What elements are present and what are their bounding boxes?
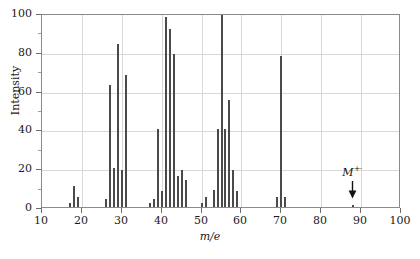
peak-bar xyxy=(149,203,151,207)
gridline-vertical xyxy=(202,15,203,207)
peak-bar xyxy=(213,190,215,207)
gridline-vertical xyxy=(241,15,242,207)
y-tick-mark xyxy=(36,130,41,131)
peak-bar xyxy=(177,176,179,207)
peak-bar xyxy=(113,168,115,207)
x-tick-label: 20 xyxy=(61,214,101,227)
peak-bar xyxy=(169,29,171,207)
y-axis-title: Intensity xyxy=(9,31,22,151)
y-tick-mark xyxy=(36,208,41,209)
peak-bar xyxy=(121,170,123,207)
peak-bar xyxy=(232,170,234,207)
peak-bar xyxy=(117,44,119,207)
y-tick-mark-minor xyxy=(38,111,41,112)
plot-area xyxy=(41,14,400,208)
y-tick-mark xyxy=(36,92,41,93)
y-tick-label: 100 xyxy=(0,7,32,20)
x-tick-label: 80 xyxy=(300,214,340,227)
x-tick-label: 40 xyxy=(141,214,181,227)
x-tick-label: 30 xyxy=(101,214,141,227)
x-tick-mark xyxy=(280,208,281,213)
peak-bar xyxy=(153,199,155,207)
x-tick-label: 10 xyxy=(21,214,61,227)
peak-bar xyxy=(217,129,219,207)
gridline-vertical xyxy=(321,15,322,207)
x-tick-mark xyxy=(121,208,122,213)
peak-bar xyxy=(165,17,167,207)
y-tick-label: 20 xyxy=(0,162,32,175)
y-tick-mark-minor xyxy=(38,189,41,190)
x-tick-mark xyxy=(360,208,361,213)
peak-bar xyxy=(280,56,282,207)
y-tick-mark xyxy=(36,14,41,15)
peak-bar xyxy=(221,14,223,207)
peak-bar xyxy=(224,129,226,207)
x-tick-label: 70 xyxy=(260,214,300,227)
x-tick-mark xyxy=(240,208,241,213)
gridline-vertical xyxy=(82,15,83,207)
x-tick-mark xyxy=(161,208,162,213)
peak-bar xyxy=(157,129,159,207)
x-tick-mark xyxy=(81,208,82,213)
mass-spectrum-figure: 102030405060708090100 020406080100 Inten… xyxy=(0,0,420,259)
peak-bar xyxy=(352,205,354,207)
peak-bar xyxy=(201,203,203,207)
x-tick-label: 100 xyxy=(380,214,420,227)
y-tick-mark xyxy=(36,53,41,54)
x-tick-mark xyxy=(41,208,42,213)
peak-bar xyxy=(228,100,230,207)
peak-bar xyxy=(236,191,238,207)
x-axis-title: m/e xyxy=(0,230,420,243)
peak-bar xyxy=(161,191,163,207)
peak-bar xyxy=(105,199,107,207)
peak-bar xyxy=(77,197,79,207)
gridline-vertical xyxy=(162,15,163,207)
y-tick-mark-minor xyxy=(38,72,41,73)
x-tick-label: 60 xyxy=(220,214,260,227)
peak-bar xyxy=(185,180,187,207)
x-tick-mark xyxy=(320,208,321,213)
peak-bar xyxy=(276,197,278,207)
x-tick-label: 50 xyxy=(181,214,221,227)
peak-bar xyxy=(73,186,75,207)
y-tick-label: 0 xyxy=(0,201,32,214)
x-tick-label: 90 xyxy=(340,214,380,227)
y-tick-mark-minor xyxy=(38,150,41,151)
peak-bar xyxy=(109,85,111,207)
x-tick-mark xyxy=(201,208,202,213)
x-tick-mark xyxy=(400,208,401,213)
peak-bar xyxy=(181,170,183,207)
peak-bar xyxy=(173,54,175,207)
y-tick-mark-minor xyxy=(38,33,41,34)
peak-bar xyxy=(69,203,71,207)
peak-bar xyxy=(125,75,127,207)
gridline-vertical xyxy=(361,15,362,207)
peak-bar xyxy=(205,197,207,207)
peak-bar xyxy=(284,197,286,207)
y-tick-mark xyxy=(36,169,41,170)
